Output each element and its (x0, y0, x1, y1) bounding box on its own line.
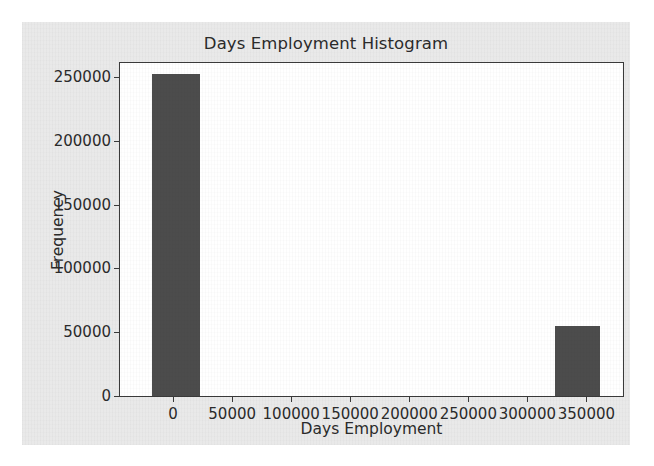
figure-canvas: Days Employment Histogram Frequency 0500… (22, 22, 630, 445)
x-tick-mark (350, 396, 351, 402)
y-tick-label: 150000 (54, 196, 111, 214)
x-tick-mark (586, 396, 587, 402)
y-tick-label: 250000 (54, 68, 111, 86)
bars-layer (120, 63, 623, 396)
x-tick-mark (291, 396, 292, 402)
x-tick-mark (468, 396, 469, 402)
y-tick-mark (114, 396, 120, 397)
y-tick-label: 100000 (54, 259, 111, 277)
y-axis-label: Frequency (48, 62, 68, 397)
plot-area: 050000100000150000200000250000 050000100… (119, 62, 624, 397)
histogram-bar (555, 326, 600, 396)
y-tick-mark (114, 268, 120, 269)
histogram-bar (152, 74, 200, 396)
x-tick-mark (173, 396, 174, 402)
y-tick-mark (114, 332, 120, 333)
y-tick-mark (114, 77, 120, 78)
y-tick-label: 50000 (63, 323, 111, 341)
x-axis-label: Days Employment (119, 420, 624, 438)
chart-title: Days Employment Histogram (22, 34, 630, 53)
y-tick-label: 0 (101, 387, 111, 405)
x-tick-mark (232, 396, 233, 402)
y-tick-mark (114, 205, 120, 206)
x-tick-mark (409, 396, 410, 402)
x-tick-mark (527, 396, 528, 402)
y-tick-label: 200000 (54, 132, 111, 150)
y-tick-mark (114, 141, 120, 142)
